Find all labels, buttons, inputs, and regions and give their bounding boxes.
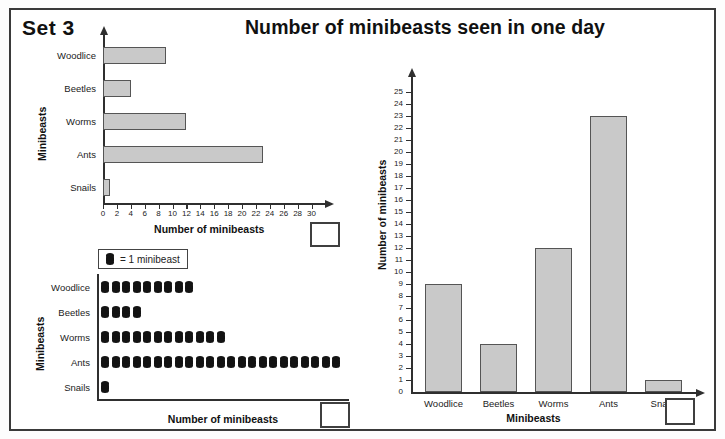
minibeast-symbol-icon [322,357,330,367]
hbar-bar-woodlice [103,47,166,64]
minibeast-symbol-icon [133,307,141,317]
pictogram-row-worms [101,331,353,343]
minibeast-symbol-icon [112,307,120,317]
minibeast-symbol-icon [217,357,225,367]
minibeast-symbol-icon [248,357,256,367]
hbar-y-axis-title: Minibeasts [36,107,48,161]
minibeast-symbol-icon [175,332,183,342]
vbar-y-tick [406,152,411,153]
pictogram-row-snails [101,381,353,393]
vbar-category-label-worms: Worms [523,398,584,409]
minibeast-symbol-icon [290,357,298,367]
hbar-bar-worms [103,113,186,130]
hbar-category-label-snails: Snails [0,182,96,193]
pictogram-x-axis-title: Number of minibeasts [97,413,349,425]
hbar-category-label-beetles: Beetles [0,83,96,94]
vbar-y-tick [406,248,411,249]
vbar-y-tick-label: 5 [385,327,403,336]
minibeast-symbol-icon [238,357,246,367]
minibeast-symbol-icon [164,357,172,367]
minibeast-symbol-icon [217,332,225,342]
vbar-y-tick-label: 22 [385,123,403,132]
vbar-category-label-ants: Ants [578,398,639,409]
minibeast-symbol-icon [101,282,109,292]
minibeast-symbol-icon [175,282,183,292]
minibeast-symbol-icon [332,357,340,367]
vbar-y-tick [406,200,411,201]
minibeast-symbol-icon [164,282,172,292]
minibeast-symbol-icon [269,357,277,367]
minibeast-symbol-icon [112,282,120,292]
minibeast-symbol-icon [185,357,193,367]
minibeast-symbol-icon [143,332,151,342]
vbar-y-tick [406,284,411,285]
pictogram-y-axis-title: Minibeasts [34,317,46,371]
minibeast-symbol-icon [259,357,267,367]
minibeast-symbol-icon [122,307,130,317]
minibeast-symbol-icon [101,357,109,367]
minibeast-symbol-icon [101,307,109,317]
minibeast-symbol-icon [122,282,130,292]
pictogram-row-woodlice [101,281,353,293]
vbar-y-tick [406,176,411,177]
vbar-y-tick [406,212,411,213]
minibeast-symbol-icon [280,357,288,367]
minibeast-symbol-icon [196,357,204,367]
minibeast-symbol-icon [101,382,109,392]
vbar-y-tick [406,236,411,237]
hbar-x-tick-label: 30 [303,209,321,218]
vbar-y-tick [406,128,411,129]
vbar-y-axis [411,76,413,392]
vbar-y-tick [406,308,411,309]
vbar-y-tick-label: 24 [385,99,403,108]
pictogram-row-ants [101,356,353,368]
minibeast-symbol-icon [106,254,114,264]
vbar-y-tick-label: 6 [385,315,403,324]
vbar-bar-snails [645,380,682,392]
pictogram-legend-label: = 1 minibeast [120,254,180,265]
vbar-y-tick-label: 3 [385,351,403,360]
minibeast-symbol-icon [164,332,172,342]
minibeast-symbol-icon [133,332,141,342]
vbar-y-tick [406,116,411,117]
vbar-y-tick-label: 0 [385,387,403,396]
hbar-bar-snails [103,179,110,196]
vbar-bar-worms [535,248,572,392]
minibeast-symbol-icon [311,357,319,367]
answer-box-pictogram[interactable] [320,402,350,428]
pictogram-chart: = 1 minibeastWoodliceBeetlesWormsAntsSna… [0,250,360,439]
hbar-x-axis-title: Number of minibeasts [98,223,320,235]
minibeast-symbol-icon [175,357,183,367]
vbar-y-axis-arrow [408,68,416,77]
minibeast-symbol-icon [185,282,193,292]
minibeast-symbol-icon [122,332,130,342]
vbar-y-tick [406,344,411,345]
minibeast-symbol-icon [301,357,309,367]
vertical-bar-chart: 0123456789101112131415161718192021222324… [360,0,725,439]
vbar-x-axis-arrow [696,389,705,397]
vbar-y-tick [406,380,411,381]
minibeast-symbol-icon [206,332,214,342]
hbar-y-axis-arrow [100,26,108,35]
vbar-bar-beetles [480,344,517,392]
minibeast-symbol-icon [154,357,162,367]
vbar-y-tick-label: 2 [385,363,403,372]
vbar-y-tick [406,296,411,297]
answer-box-hbar[interactable] [310,222,340,247]
vbar-y-tick [406,188,411,189]
minibeast-symbol-icon [133,282,141,292]
pictogram-row-beetles [101,306,353,318]
minibeast-symbol-icon [206,357,214,367]
answer-box-vbar[interactable] [665,398,695,425]
vbar-y-axis-title: Number of minibeasts [376,160,388,270]
hbar-category-label-woodlice: Woodlice [0,50,96,61]
vbar-y-tick-label: 7 [385,303,403,312]
pictogram-category-label-snails: Snails [0,382,90,393]
minibeast-symbol-icon [101,332,109,342]
vbar-y-tick [406,356,411,357]
vbar-x-axis-title: Minibeasts [411,412,656,424]
hbar-category-label-worms: Worms [0,116,96,127]
minibeast-symbol-icon [143,282,151,292]
vbar-y-tick [406,368,411,369]
vbar-y-tick [406,140,411,141]
